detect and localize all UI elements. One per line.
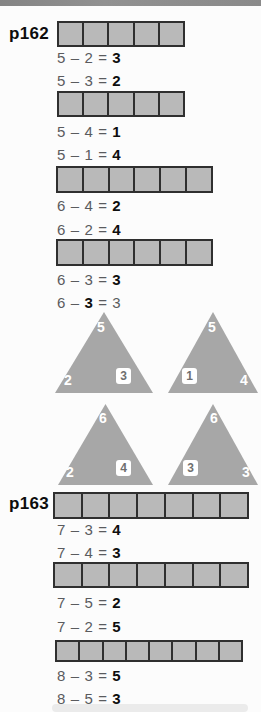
counting-bar-6: [56, 166, 213, 193]
counting-bar-7: [53, 562, 249, 588]
equation: 7 – 4 = 3: [57, 544, 121, 561]
triangle-answer-box: 3: [183, 460, 198, 476]
equation: 5 – 2 = 3: [57, 49, 121, 66]
triangle-top-number: 6: [210, 410, 218, 426]
page-bottom-edge-shadow: [52, 704, 248, 712]
equation: 7 – 5 = 2: [57, 594, 121, 611]
triangle-top-number: 5: [97, 319, 105, 335]
bar-cell: [195, 640, 220, 662]
bar-cell: [78, 640, 103, 662]
equation-answer: 3: [112, 271, 121, 288]
equation-operands: 7 – 3 =: [57, 521, 112, 538]
bar-cell: [108, 166, 136, 193]
bar-cell: [133, 91, 160, 117]
equation-answer: 4: [112, 221, 121, 238]
bar-cell: [219, 562, 249, 588]
bar-cell: [164, 492, 194, 519]
equation-operands: 7 – 4 =: [57, 544, 112, 561]
bar-cell: [133, 239, 161, 266]
equation-answer: 5: [112, 618, 121, 635]
bar-cell: [102, 640, 127, 662]
number-bond-triangle: 6 2 4: [58, 404, 153, 485]
bar-cell: [81, 492, 111, 519]
equation: 7 – 2 = 5: [57, 618, 121, 635]
bar-cell: [82, 21, 109, 47]
number-bond-triangle: 5 1 4: [168, 312, 258, 393]
counting-bar-8: [55, 640, 243, 662]
bar-cell: [108, 562, 138, 588]
page-top-edge: [0, 0, 261, 6]
triangle-top-number: 5: [208, 319, 216, 335]
bar-cell: [53, 562, 83, 588]
equation-operands: 7 – 5 =: [57, 594, 112, 611]
bar-cell: [108, 492, 138, 519]
equation-answer: 2: [112, 72, 121, 89]
bar-cell: [56, 239, 84, 266]
bar-cell: [148, 640, 173, 662]
equation-operands: 6 –: [57, 294, 84, 311]
bar-cell: [53, 492, 83, 519]
bar-cell: [56, 166, 84, 193]
equation-answer: 5: [112, 667, 121, 684]
counting-bar-7: [53, 492, 249, 519]
bar-cell: [82, 166, 110, 193]
triangle-bottom-left-number: 2: [64, 372, 72, 388]
bar-cell: [133, 21, 160, 47]
page-label-p163: p163: [9, 494, 49, 514]
bar-cell: [107, 91, 134, 117]
bar-cell: [107, 21, 134, 47]
bar-cell: [219, 492, 249, 519]
equation-operands: 5 – 1 =: [57, 146, 112, 163]
equation-answer: 4: [112, 521, 121, 538]
equation: 7 – 3 = 4: [57, 521, 121, 538]
equation-answer: 2: [112, 594, 121, 611]
equation-answer: 3: [112, 544, 121, 561]
equation: 5 – 1 = 4: [57, 146, 121, 163]
triangle-top-number: 6: [99, 410, 107, 426]
triangle-bottom-right-number: 3: [242, 464, 250, 480]
page-label-p162: p162: [9, 24, 49, 44]
equation-operands: 6 – 3 =: [57, 271, 112, 288]
counting-bar-5: [57, 21, 185, 47]
equation: 5 – 3 = 2: [57, 72, 121, 89]
bar-cell: [158, 91, 185, 117]
equation-answer: 1: [112, 123, 121, 140]
bar-cell: [125, 640, 150, 662]
bar-cell: [82, 91, 109, 117]
bar-cell: [218, 640, 243, 662]
bar-cell: [57, 21, 84, 47]
equation-answer: 4: [112, 146, 121, 163]
equation: 6 – 3 = 3: [57, 294, 121, 311]
triangle-bottom-left-number: 2: [66, 464, 74, 480]
triangle-answer-box: 3: [116, 368, 131, 384]
equation: 5 – 4 = 1: [57, 123, 121, 140]
equation: 6 – 3 = 3: [57, 271, 121, 288]
equation-operands: 5 – 2 =: [57, 49, 112, 66]
equation-operands: 6 – 4 =: [57, 197, 112, 214]
bar-cell: [81, 562, 111, 588]
equation-answer: 2: [112, 197, 121, 214]
bar-cell: [136, 562, 166, 588]
equation-operands: 5 – 3 =: [57, 72, 112, 89]
triangle-bottom-right-number: 4: [240, 372, 248, 388]
bar-cell: [185, 239, 213, 266]
bar-cell: [159, 166, 187, 193]
counting-bar-6: [56, 239, 213, 266]
bar-cell: [192, 562, 222, 588]
bar-cell: [171, 640, 196, 662]
bar-cell: [82, 239, 110, 266]
equation-operands: 5 – 4 =: [57, 123, 112, 140]
bar-cell: [164, 562, 194, 588]
bar-cell: [185, 166, 213, 193]
number-bond-triangle: 5 2 3: [55, 312, 153, 393]
bar-cell: [133, 166, 161, 193]
number-bond-triangle: 6 3 3: [168, 404, 258, 485]
counting-bar-5: [57, 91, 185, 117]
bar-cell: [158, 21, 185, 47]
triangle-answer-box: 1: [182, 368, 197, 384]
equation-operands: 8 – 3 =: [57, 667, 112, 684]
equation: 8 – 3 = 5: [57, 667, 121, 684]
equation-operands: 6 – 2 =: [57, 221, 112, 238]
bar-cell: [136, 492, 166, 519]
